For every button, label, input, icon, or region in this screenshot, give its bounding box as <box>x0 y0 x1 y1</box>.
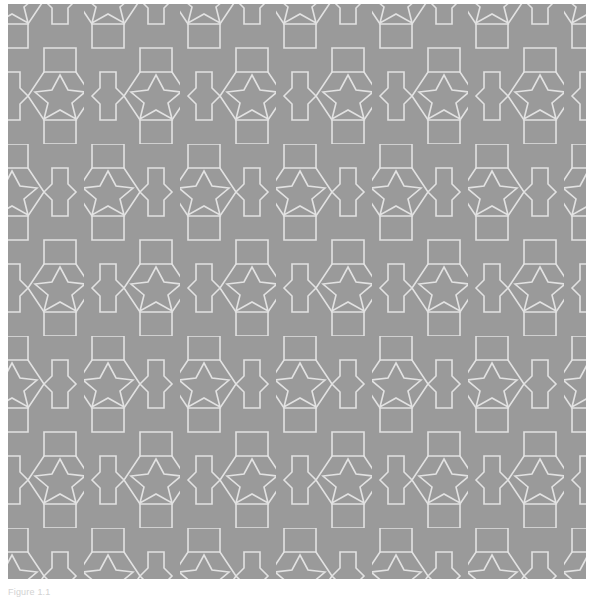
tessellation-svg <box>8 4 586 579</box>
figure-caption: Figure 1.1 <box>8 586 586 598</box>
pattern-figure <box>8 4 586 579</box>
page-root: Figure 1.1 <box>0 0 594 604</box>
pattern-fill <box>8 4 586 579</box>
